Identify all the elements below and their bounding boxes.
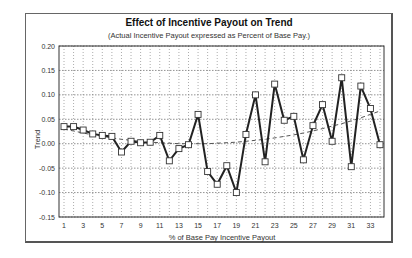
x-tick-label: 31 [347,222,355,229]
square-marker-icon [377,142,383,148]
square-marker-icon [291,113,297,119]
x-tick-label: 25 [290,222,298,229]
square-marker-icon [300,157,306,163]
y-tick-label: 0.00 [41,140,55,147]
square-marker-icon [233,190,239,196]
gridlines [59,46,384,217]
plot-border [59,46,384,217]
x-tick-label: 33 [367,222,375,229]
y-tick-label: -0.05 [39,165,55,172]
x-tick-label: 1 [62,222,66,229]
plot-area: 0.200.150.100.050.00-0.05-0.10-0.15 1357… [0,0,412,258]
square-marker-icon [185,142,191,148]
square-marker-icon [367,106,373,112]
square-marker-icon [109,133,115,139]
square-marker-icon [214,181,220,187]
square-marker-icon [157,132,163,138]
x-tick-label: 17 [213,222,221,229]
x-tick-label: 3 [81,222,85,229]
square-marker-icon [80,127,86,133]
square-marker-icon [118,149,124,155]
square-marker-icon [99,132,105,138]
x-tick-label: 21 [252,222,260,229]
x-tick-label: 19 [232,222,240,229]
square-marker-icon [272,81,278,87]
square-marker-icon [166,158,172,164]
square-marker-icon [358,83,364,89]
square-marker-icon [329,138,335,144]
square-marker-icon [243,131,249,137]
square-marker-icon [61,124,67,130]
square-marker-icon [205,169,211,175]
x-tick-label: 23 [271,222,279,229]
square-marker-icon [320,102,326,108]
square-marker-icon [176,146,182,152]
square-marker-icon [195,111,201,117]
square-marker-icon [262,159,268,165]
square-marker-icon [90,131,96,137]
y-axis-ticks: 0.200.150.100.050.00-0.05-0.10-0.15 [39,43,55,221]
square-marker-icon [138,140,144,146]
x-tick-label: 27 [309,222,317,229]
square-marker-icon [128,138,134,144]
y-tick-label: 0.20 [41,43,55,50]
y-tick-label: 0.15 [41,67,55,74]
square-marker-icon [281,117,287,123]
y-tick-label: 0.10 [41,91,55,98]
square-marker-icon [348,164,354,170]
square-marker-icon [310,123,316,129]
x-tick-label: 11 [156,222,163,229]
y-tick-label: 0.05 [41,116,55,123]
x-tick-label: 15 [194,222,202,229]
x-axis-ticks: 13579111315171921232527293133 [62,222,374,229]
square-marker-icon [147,139,153,145]
square-marker-icon [339,75,345,81]
data-markers [61,75,383,196]
y-tick-label: -0.10 [39,189,55,196]
y-tick-label: -0.15 [39,214,55,221]
square-marker-icon [253,92,259,98]
x-tick-label: 29 [328,222,336,229]
square-marker-icon [71,124,77,130]
x-tick-label: 5 [100,222,104,229]
square-marker-icon [224,163,230,169]
x-tick-label: 13 [175,222,183,229]
x-tick-label: 7 [120,222,124,229]
x-tick-label: 9 [139,222,143,229]
